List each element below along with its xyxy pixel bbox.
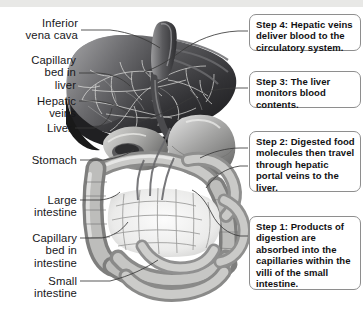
label-hepatic-veins: Hepatic veins [0, 95, 76, 120]
label-stomach: Stomach [0, 154, 77, 166]
label-capillary-bed-in-intestine: Capillary bed in intestine [0, 232, 77, 269]
diagram-canvas: Inferior vena cava Capillary bed in live… [0, 0, 363, 311]
callout-step-3[interactable]: Step 3: The liver monitors blood content… [249, 71, 361, 108]
large-intestine-ascending [84, 168, 112, 266]
label-small-intestine: Small intestine [0, 275, 77, 300]
capillary-bed-in-intestine-mesh [108, 188, 221, 257]
callout-step-1[interactable]: Step 1: Products of digestion are absorb… [249, 216, 361, 290]
label-inferior-vena-cava: Inferior vena cava [0, 17, 78, 42]
callout-step-4[interactable]: Step 4: Hepatic veins deliver blood to t… [249, 14, 361, 51]
label-large-intestine: Large intestine [0, 194, 77, 219]
label-liver: Liver [0, 122, 72, 134]
callout-step-2[interactable]: Step 2: Digested food molecules then tra… [249, 131, 361, 192]
label-capillary-bed-in-liver: Capillary bed in liver [0, 54, 76, 91]
